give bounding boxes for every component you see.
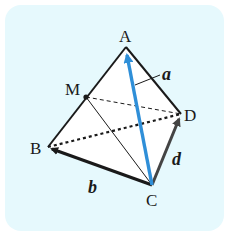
- vector-label-a: a: [162, 64, 171, 84]
- vector-label-b: b: [88, 177, 97, 197]
- vertex-label-m: M: [65, 80, 80, 99]
- vector-label-d: d: [172, 149, 182, 169]
- vertex-label-c: C: [146, 191, 157, 210]
- point-m-marker: [83, 94, 88, 99]
- vertex-label-a: A: [119, 27, 132, 46]
- vertex-label-b: B: [30, 139, 41, 158]
- tetrahedron-diagram: A B C D M a b d: [0, 0, 229, 236]
- vertex-label-d: D: [184, 106, 196, 125]
